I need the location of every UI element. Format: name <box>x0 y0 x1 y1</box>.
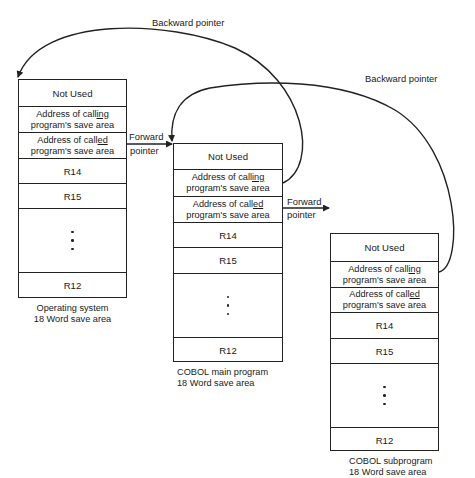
row-r15: R15 <box>19 183 126 208</box>
caption-cobol-main: COBOL main program 18 Word save area <box>173 367 283 389</box>
save-area-cobol-main: Not Used Address of calling program's sa… <box>173 143 283 362</box>
row-called-address: Address of called program's save area <box>174 196 282 222</box>
caption-cobol-subprogram: COBOL subprogram 18 Word save area <box>330 456 439 478</box>
row-r15: R15 <box>331 338 438 363</box>
row-r12: R12 <box>174 337 282 362</box>
row-called-address: Address of called program's save area <box>331 287 438 312</box>
save-area-cobol-subprogram: Not Used Address of calling program's sa… <box>330 233 439 451</box>
backward-pointer-label-1: Backward pointer <box>152 17 224 28</box>
forward-pointer-label-2-line2: pointer <box>287 209 316 220</box>
vertical-ellipsis-icon <box>227 296 230 316</box>
row-r12: R12 <box>19 272 126 298</box>
row-called-address: Address of called program's save area <box>19 132 126 158</box>
row-r12: R12 <box>331 427 438 452</box>
row-ellipsis <box>174 273 282 337</box>
row-calling-address: Address of calling program's save area <box>174 169 282 196</box>
row-calling-address: Address of calling program's save area <box>19 106 126 132</box>
row-r15: R15 <box>174 247 282 273</box>
row-r14: R14 <box>174 222 282 247</box>
row-not-used: Not Used <box>19 80 126 106</box>
caption-operating-system: Operating system 18 Word save area <box>18 303 127 325</box>
row-not-used: Not Used <box>331 234 438 261</box>
row-ellipsis <box>331 363 438 427</box>
row-r14: R14 <box>19 158 126 183</box>
forward-pointer-label-1-line2: pointer <box>130 145 159 156</box>
save-area-operating-system: Not Used Address of calling program's sa… <box>18 79 127 298</box>
backward-pointer-label-2: Backward pointer <box>365 73 437 84</box>
row-r14: R14 <box>331 312 438 338</box>
forward-pointer-label-1-line1: Forward <box>129 131 163 142</box>
row-not-used: Not Used <box>174 144 282 169</box>
forward-pointer-label-2-line1: Forward <box>287 196 321 207</box>
row-ellipsis <box>19 208 126 272</box>
vertical-ellipsis-icon <box>71 231 74 251</box>
row-calling-address: Address of calling program's save area <box>331 261 438 287</box>
vertical-ellipsis-icon <box>383 386 386 406</box>
